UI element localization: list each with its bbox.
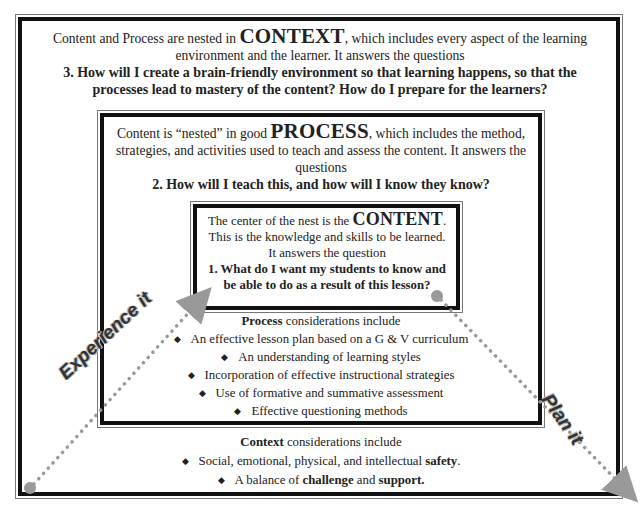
arrows-overlay <box>0 0 641 512</box>
plan-arrow <box>431 290 626 490</box>
